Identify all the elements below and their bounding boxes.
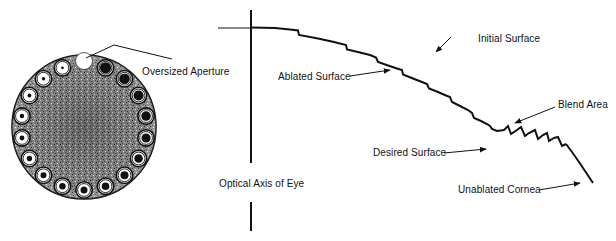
aperture <box>116 71 132 87</box>
aperture <box>14 130 30 146</box>
aperture <box>116 167 132 183</box>
aperture <box>130 150 146 166</box>
desired-surface-arrow <box>444 149 486 153</box>
unablated-cornea-curve <box>566 144 593 183</box>
aperture <box>21 150 37 166</box>
oversized-aperture <box>76 53 93 70</box>
aperture <box>35 71 51 87</box>
aperture <box>54 60 70 76</box>
diagram-figure: Oversized Aperture Initial Surface Ablat… <box>0 0 616 241</box>
unablated-cornea-arrow <box>539 183 580 190</box>
aperture <box>138 130 154 146</box>
aperture <box>14 108 30 124</box>
aperture <box>35 167 51 183</box>
label-oversized-aperture: Oversized Aperture <box>142 66 229 77</box>
label-initial-surface: Initial Surface <box>478 33 540 44</box>
label-ablated-surface: Ablated Surface <box>278 71 351 82</box>
ablated-surface-curve <box>251 28 566 147</box>
aperture <box>76 182 92 198</box>
label-optical-axis: Optical Axis of Eye <box>219 178 304 189</box>
aperture <box>97 178 113 194</box>
blend-area-arrow <box>515 107 555 123</box>
ablated-surface-arrow <box>350 70 390 76</box>
label-unablated-cornea: Unablated Cornea <box>458 184 541 195</box>
aperture <box>54 178 70 194</box>
aperture <box>138 108 154 124</box>
label-blend-area: Blend Area <box>558 99 608 110</box>
aperture <box>97 60 113 76</box>
initial-surface-arrow <box>436 37 451 52</box>
aperture <box>21 87 37 103</box>
label-desired-surface: Desired Surface <box>373 147 446 158</box>
aperture <box>130 87 146 103</box>
